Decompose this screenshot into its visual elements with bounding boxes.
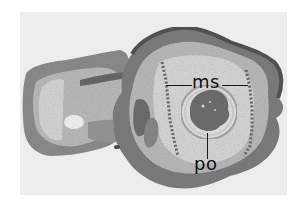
label-po: po: [194, 155, 217, 173]
debris-fragment: [114, 145, 120, 149]
central-organ: [181, 85, 237, 139]
label-ms: ms: [192, 73, 220, 91]
ms-leader-line-left: [166, 85, 192, 86]
tissue-section-image: [0, 0, 300, 206]
ms-leader-line-right: [222, 85, 248, 86]
